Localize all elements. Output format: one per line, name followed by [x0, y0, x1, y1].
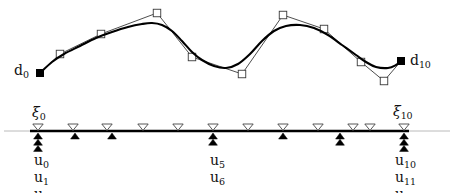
- u-label-sub: 6: [219, 176, 225, 187]
- u-knot-marker-filled-triangle-icon: [34, 133, 43, 139]
- bspline-figure: [0, 0, 454, 193]
- bspline-curve-path: [40, 23, 401, 73]
- label-u12: u12: [395, 186, 416, 193]
- xi-knot-marker-open-triangle-icon: [365, 124, 375, 130]
- xi-knot-marker-open-triangle-icon: [68, 124, 78, 130]
- u-knot-marker-filled-triangle-icon: [400, 139, 409, 145]
- u-knot-marker-filled-triangle-icon: [34, 139, 43, 145]
- control-point-marker: [380, 77, 388, 85]
- label-u0: u0: [34, 152, 49, 169]
- u-label-sub: 0: [43, 159, 49, 170]
- u-knot-marker-filled-triangle-icon: [71, 133, 80, 139]
- label-d0-sub: 0: [23, 69, 29, 80]
- xi-knot-marker-open-triangle-icon: [102, 124, 112, 130]
- u-label-sub: 11: [404, 176, 416, 187]
- label-xi0-base: ξ: [32, 104, 40, 120]
- u-label-sub: 10: [404, 159, 416, 170]
- control-point-marker: [238, 70, 246, 78]
- u-label-base: u: [210, 169, 219, 185]
- control-point-marker: [153, 9, 161, 17]
- label-u6: u6: [210, 169, 225, 186]
- u-knot-marker-filled-triangle-icon: [336, 139, 345, 145]
- u-knot-marker-filled-triangle-icon: [279, 133, 288, 139]
- u-knot-marker-filled-triangle-icon: [336, 133, 345, 139]
- xi-knot-marker-open-triangle-icon: [138, 124, 148, 130]
- u-label-sub: 1: [43, 176, 49, 187]
- label-xi0-sub: 0: [40, 111, 46, 122]
- label-u2: u2: [34, 186, 49, 193]
- label-xi10-sub: 10: [401, 110, 413, 121]
- u-label-base: u: [395, 186, 404, 193]
- control-polygon-group: [37, 9, 405, 85]
- u-knot-marker-filled-triangle-icon: [400, 133, 409, 139]
- u-label-base: u: [395, 152, 404, 168]
- u-label-base: u: [34, 152, 43, 168]
- xi-knot-markers: [33, 124, 409, 130]
- xi-knot-marker-open-triangle-icon: [243, 124, 253, 130]
- control-point-markers: [37, 9, 405, 85]
- u-label-base: u: [34, 169, 43, 185]
- label-d10: d10: [410, 52, 431, 69]
- bspline-curve-group: [40, 23, 401, 73]
- label-xi10: ξ10: [393, 103, 412, 120]
- xi-knot-marker-open-triangle-icon: [313, 124, 323, 130]
- knot-axis-group: [4, 124, 450, 151]
- control-point-marker: [279, 11, 287, 19]
- u-knot-marker-filled-triangle-icon: [209, 133, 218, 139]
- label-u10: u10: [395, 152, 416, 169]
- xi-knot-marker-open-triangle-icon: [173, 124, 183, 130]
- u-knot-marker-filled-triangle-icon: [209, 139, 218, 145]
- label-xi10-base: ξ: [393, 103, 401, 119]
- label-d0-base: d: [14, 62, 23, 78]
- label-d10-sub: 10: [419, 59, 431, 70]
- xi-knot-marker-open-triangle-icon: [399, 124, 409, 130]
- u-knot-markers: [34, 133, 409, 151]
- label-xi0: ξ0: [32, 104, 46, 121]
- u-label-base: u: [395, 169, 404, 185]
- label-u11: u11: [395, 169, 416, 186]
- xi-knot-marker-open-triangle-icon: [208, 124, 218, 130]
- label-u5: u5: [210, 152, 225, 169]
- control-polygon-line: [40, 13, 401, 81]
- label-u1: u1: [34, 169, 49, 186]
- u-knot-marker-filled-triangle-icon: [400, 145, 409, 151]
- u-label-sub: 5: [219, 159, 225, 170]
- label-d10-base: d: [410, 52, 419, 68]
- u-knot-marker-filled-triangle-icon: [108, 133, 117, 139]
- u-label-base: u: [34, 186, 43, 193]
- u-label-base: u: [210, 152, 219, 168]
- xi-knot-marker-open-triangle-icon: [348, 124, 358, 130]
- xi-knot-marker-open-triangle-icon: [33, 124, 43, 130]
- label-d0: d0: [14, 62, 29, 79]
- xi-knot-marker-open-triangle-icon: [278, 124, 288, 130]
- u-knot-marker-filled-triangle-icon: [34, 145, 43, 151]
